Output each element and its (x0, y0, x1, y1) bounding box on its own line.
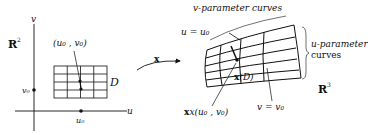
parametrization-diagram: v u R 2 D (u₀ , v₀) v₀ u₀ x v-p (0, 0, 368, 135)
v0-marker (32, 88, 36, 92)
v-axis-label: v (31, 14, 36, 24)
v-parameter-curves-label: v-parameter curves (193, 3, 282, 13)
point-u0v0-lower (79, 87, 82, 90)
mapping-arrow: x (137, 54, 180, 70)
u-axis-label: u (127, 106, 133, 116)
mapping-label: x (154, 54, 160, 64)
domain-panel: v u R 2 D (u₀ , v₀) v₀ u₀ (8, 14, 133, 131)
u-eq-pointer (229, 33, 240, 40)
u-eq-u0-label: u = u₀ (181, 27, 210, 37)
region-d-label: D (109, 76, 119, 89)
point-u0v0-label: (u₀ , v₀) (53, 38, 87, 48)
u0-marker (79, 109, 83, 113)
r3-exponent: 3 (327, 81, 331, 88)
image-d-label: x(D) (234, 72, 254, 82)
u-parameter-label-line1: u-parameter (311, 39, 368, 49)
point-u0v0 (78, 79, 81, 82)
point-image-label: xx(u₀ , v₀) (184, 107, 229, 117)
surface-panel: v-parameter curves u = u₀ x(D) xx(u₀ , v… (181, 3, 368, 117)
v0-label: v₀ (22, 86, 31, 95)
u0-label: u₀ (76, 116, 85, 125)
u0-curve-highlight (231, 46, 237, 60)
v-eq-v0-label: v = v₀ (257, 102, 284, 112)
u-parameter-label-line2: curves (311, 50, 342, 60)
u-curves-brace (302, 27, 309, 79)
r2-exponent: 2 (17, 36, 21, 43)
